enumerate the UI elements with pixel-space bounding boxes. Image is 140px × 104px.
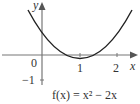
- origin-label: 0: [31, 56, 37, 70]
- x-tick-label-1: 1: [77, 61, 83, 75]
- function-label: f(x) = x² − 2x: [52, 88, 117, 102]
- x-axis-arrow-icon: [130, 52, 138, 59]
- y-axis-label: y: [32, 0, 39, 12]
- x-tick-label-2: 2: [113, 61, 119, 75]
- parabola-curve: [28, 10, 132, 59]
- y-axis-arrow-icon: [39, 2, 46, 10]
- y-tick-label-neg1: −1: [22, 73, 35, 87]
- x-axis-label: x: [129, 59, 136, 73]
- graph: y x 0 1 2 −1 f(x) = x² − 2x: [0, 0, 140, 104]
